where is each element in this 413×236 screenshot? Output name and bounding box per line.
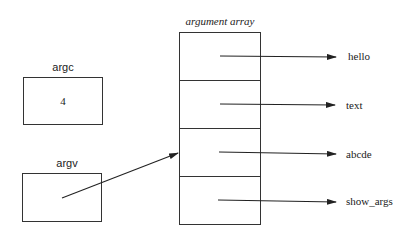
array-entry: hello	[220, 50, 370, 62]
entry-target-label: abcde	[346, 148, 372, 160]
argc-value: 4	[60, 95, 66, 107]
entry-arrow	[220, 104, 335, 105]
argument-array-diagram: argc 4 argv argument array hello text ab…	[0, 0, 413, 236]
array-entry: text	[220, 99, 363, 111]
argv-label: argv	[56, 157, 78, 169]
entry-arrow	[219, 152, 336, 154]
argc-label: argc	[52, 61, 74, 73]
entry-arrow	[220, 56, 336, 57]
entry-target-label: hello	[348, 50, 370, 62]
entry-arrow	[218, 200, 336, 202]
argument-array	[180, 33, 261, 225]
array-title: argument array	[186, 15, 255, 27]
entry-target-label: text	[346, 99, 363, 111]
array-entry: abcde	[219, 148, 372, 160]
argv-pointer-arrow	[62, 153, 178, 198]
array-entry: show_args	[218, 195, 393, 207]
entry-target-label: show_args	[346, 195, 393, 207]
